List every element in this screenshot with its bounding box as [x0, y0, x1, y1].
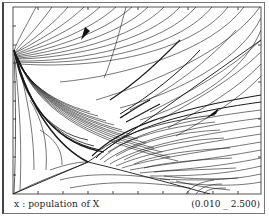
- flow-arrows: [81, 27, 219, 118]
- streamlines: [13, 7, 261, 194]
- phase-portrait-plot: [0, 0, 269, 221]
- x-axis-range: (0.010 _ 2.500): [191, 199, 260, 209]
- x-axis-label: x : population of X: [14, 199, 99, 209]
